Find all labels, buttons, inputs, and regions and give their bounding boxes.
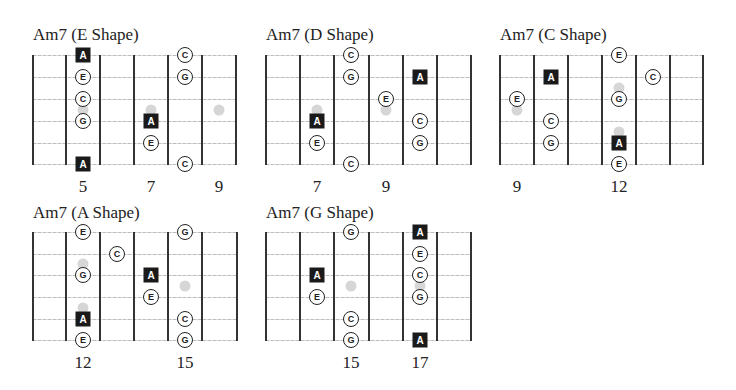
fret-number-label: 17 — [412, 354, 429, 371]
fret-line — [436, 232, 438, 341]
root-note-marker: A — [76, 48, 91, 63]
fret-line — [368, 55, 370, 165]
diagram-title: Am7 (E Shape) — [33, 26, 139, 43]
root-note-marker: A — [310, 268, 325, 283]
chord-tone-marker: E — [412, 246, 428, 262]
chord-tone-marker: E — [378, 91, 394, 107]
fret-line — [167, 55, 169, 165]
fret-line — [402, 55, 404, 165]
chord-tone-marker: E — [611, 47, 627, 63]
chord-tone-marker: E — [309, 135, 325, 151]
chord-tone-marker: C — [75, 91, 91, 107]
chord-tone-marker: G — [543, 135, 559, 151]
chord-tone-marker: G — [343, 69, 359, 85]
fret-number-label: 9 — [215, 178, 224, 195]
fret-line — [167, 232, 169, 341]
diagram-title: Am7 (G Shape) — [266, 204, 374, 221]
diagram-title: Am7 (A Shape) — [33, 204, 140, 221]
fret-line — [567, 55, 569, 165]
fret-line — [32, 55, 34, 165]
fret-line — [533, 55, 535, 165]
chord-tone-marker: C — [412, 267, 428, 283]
fret-line — [133, 232, 135, 341]
fret-line — [32, 232, 34, 341]
chord-tone-marker: G — [343, 332, 359, 348]
root-note-marker: A — [76, 312, 91, 327]
chord-tone-marker: E — [143, 289, 159, 305]
fret-line — [436, 55, 438, 165]
chord-tone-marker: C — [343, 311, 359, 327]
string-line — [33, 340, 237, 341]
inlay-dot — [214, 105, 225, 116]
fret-line — [499, 55, 501, 165]
root-note-marker: A — [144, 268, 159, 283]
chord-tone-marker: C — [109, 246, 125, 262]
string-line — [33, 254, 237, 255]
chord-tone-marker: C — [412, 113, 428, 129]
fret-number-label: 5 — [79, 178, 88, 195]
inlay-dot — [180, 281, 191, 292]
chord-tone-marker: E — [611, 156, 627, 172]
fret-line — [669, 55, 671, 165]
string-line — [33, 319, 237, 320]
diagram-title: Am7 (D Shape) — [266, 26, 374, 43]
fret-number-label: 7 — [313, 178, 322, 195]
diagram-title: Am7 (C Shape) — [500, 26, 607, 43]
chord-tone-marker: G — [75, 113, 91, 129]
fret-number-label: 15 — [177, 354, 194, 371]
chord-tone-marker: C — [177, 311, 193, 327]
chord-tone-marker: G — [412, 135, 428, 151]
fret-line — [99, 232, 101, 341]
chord-tone-marker: E — [309, 289, 325, 305]
root-note-marker: A — [144, 114, 159, 129]
string-line — [33, 297, 237, 298]
chord-tone-marker: C — [343, 47, 359, 63]
fret-line — [236, 232, 238, 341]
fret-line — [470, 232, 472, 341]
chord-tone-marker: E — [509, 91, 525, 107]
chord-diagram-sheet: Am7 (E Shape)AECGAAECGC579 Am7 (D Shape)… — [0, 0, 736, 390]
fret-line — [133, 55, 135, 165]
fret-line — [333, 55, 335, 165]
fret-number-label: 15 — [343, 354, 360, 371]
chord-tone-marker: C — [543, 113, 559, 129]
chord-tone-marker: G — [343, 224, 359, 240]
fret-line — [265, 232, 267, 341]
root-note-marker: A — [612, 136, 627, 151]
fret-line — [299, 232, 301, 341]
root-note-marker: A — [413, 225, 428, 240]
fret-line — [65, 232, 67, 341]
string-line — [33, 275, 237, 276]
root-note-marker: A — [310, 114, 325, 129]
fret-line — [201, 232, 203, 341]
chord-tone-marker: G — [177, 69, 193, 85]
root-note-marker: A — [413, 70, 428, 85]
fret-line — [299, 55, 301, 165]
fret-line — [402, 232, 404, 341]
fret-number-label: 9 — [513, 178, 522, 195]
chord-tone-marker: C — [645, 69, 661, 85]
fret-number-label: 12 — [75, 354, 92, 371]
root-note-marker: A — [76, 157, 91, 172]
chord-tone-marker: G — [75, 267, 91, 283]
chord-tone-marker: E — [143, 135, 159, 151]
string-line — [33, 232, 237, 233]
fret-number-label: 7 — [147, 178, 156, 195]
inlay-dot — [346, 281, 357, 292]
root-note-marker: A — [413, 333, 428, 348]
chord-tone-marker: C — [177, 47, 193, 63]
fret-line — [201, 55, 203, 165]
chord-tone-marker: G — [611, 91, 627, 107]
fret-line — [635, 55, 637, 165]
chord-tone-marker: G — [412, 289, 428, 305]
chord-tone-marker: C — [343, 156, 359, 172]
chord-tone-marker: C — [177, 156, 193, 172]
fret-line — [368, 232, 370, 341]
fret-line — [235, 55, 237, 165]
fret-line — [99, 55, 101, 165]
chord-tone-marker: E — [75, 69, 91, 85]
fret-line — [702, 55, 704, 165]
chord-tone-marker: E — [75, 332, 91, 348]
fret-line — [601, 55, 603, 165]
fret-line — [65, 55, 67, 165]
